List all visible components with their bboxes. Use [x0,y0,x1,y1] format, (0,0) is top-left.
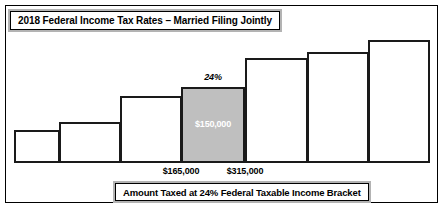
bar-rate-32 [245,58,308,163]
chart-caption-banner: Amount Taxed at 24% Federal Taxable Inco… [115,183,369,201]
bar-value-label: $150,000 [183,119,243,129]
bar-rate-12 [59,122,121,163]
bar-rate-37 [368,40,430,163]
tick-label-bracket-low: $165,000 [150,166,212,176]
chart-title-text: 2018 Federal Income Tax Rates – Married … [18,15,272,26]
bar-rate-10 [14,130,60,163]
tick-label-bracket-high: $315,000 [214,166,276,176]
bar-rate-22 [120,96,182,163]
chart-baseline [14,161,430,163]
bar-rate-35 [307,52,369,163]
tax-bracket-chart-figure: $150,000 24% $165,000 $315,000 2018 Fede… [0,0,445,210]
chart-plot-area: $150,000 24% $165,000 $315,000 [0,0,445,210]
chart-title-banner: 2018 Federal Income Tax Rates – Married … [10,11,280,30]
bar-rate-24-percent-label: 24% [181,72,245,82]
bar-rate-24-highlighted: $150,000 [181,87,245,163]
chart-caption-text: Amount Taxed at 24% Federal Taxable Inco… [123,187,361,198]
